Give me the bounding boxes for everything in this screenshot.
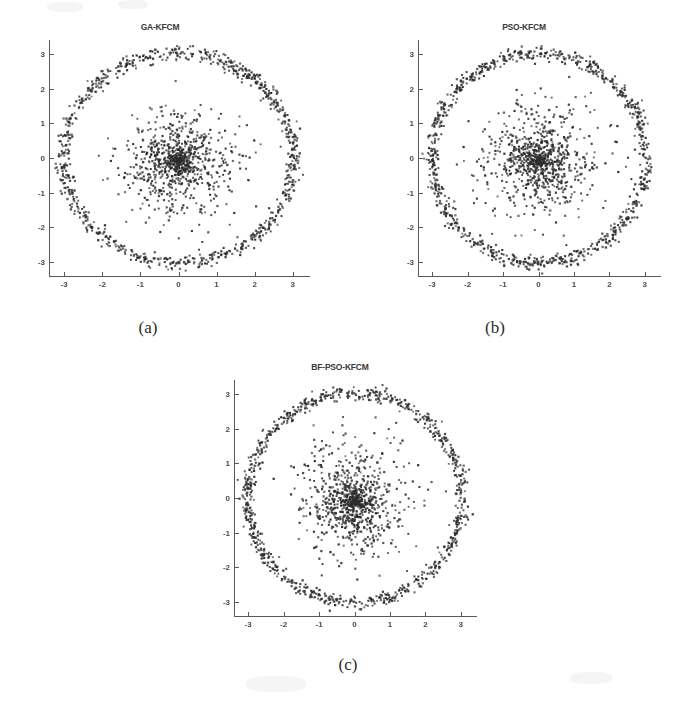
plot-a-x-tick xyxy=(255,272,256,276)
plot-b-y-ticklabel: 1 xyxy=(394,119,414,128)
plot-b-x-ticklabel: 3 xyxy=(643,280,647,289)
plot-a-y-tick xyxy=(50,227,54,228)
plot-a-x-ticklabel: 1 xyxy=(214,280,218,289)
plot-b-x-tick xyxy=(468,272,469,276)
plot-c-y-tick xyxy=(235,567,239,568)
panel-c-title: BF-PSO-KFCM xyxy=(230,362,450,372)
plot-b-y-ticklabel: -2 xyxy=(394,223,414,232)
plot-b-y-ticklabel: -3 xyxy=(394,258,414,267)
panel-b-title: PSO-KFCM xyxy=(414,22,634,32)
plot-b-y-ticklabel: -1 xyxy=(394,188,414,197)
plot-a-x-tick xyxy=(179,272,180,276)
plot-a-x-ticklabel: -3 xyxy=(61,280,68,289)
plot-b-x-tick xyxy=(503,272,504,276)
plot-c-y-tick xyxy=(235,498,239,499)
plot-c-y-ticklabel: 1 xyxy=(210,459,230,468)
plot-b-x-ticklabel: 2 xyxy=(607,280,611,289)
plot-c-y-tick xyxy=(235,394,239,395)
panel-b-plot-area: -3-2-10123-3-2-10123 xyxy=(389,36,661,298)
panel-a-caption: (a) xyxy=(139,318,158,338)
plot-c-y-tick xyxy=(235,429,239,430)
plot-b-x-ticklabel: 0 xyxy=(536,280,540,289)
plot-c-x-ticklabel: -2 xyxy=(280,620,287,629)
plot-c-x-tick xyxy=(425,612,426,616)
plot-c-x-ticklabel: -3 xyxy=(245,620,252,629)
plot-a-x-tick xyxy=(64,272,65,276)
plot-a-x-ticklabel: 3 xyxy=(291,280,295,289)
scan-artifact xyxy=(570,672,612,684)
plot-c-x-tick xyxy=(390,612,391,616)
plot-b-x-axis xyxy=(418,276,661,277)
plot-b-y-tick xyxy=(419,89,423,90)
plot-c-y-ticklabel: -3 xyxy=(210,598,230,607)
plot-c-x-tick xyxy=(284,612,285,616)
scan-artifact xyxy=(118,0,148,9)
panel-a: GA-KFCM -3-2-10123-3-2-10123 xyxy=(20,22,320,322)
plot-c-y-ticklabel: 3 xyxy=(210,389,230,398)
plot-c-y-tick xyxy=(235,463,239,464)
plot-a-y-ticklabel: -3 xyxy=(25,258,45,267)
plot-b-y-tick xyxy=(419,54,423,55)
plot-c-x-tick xyxy=(319,612,320,616)
scan-artifact xyxy=(47,2,83,12)
plot-c-y-tick xyxy=(235,533,239,534)
plot-b-x-ticklabel: -3 xyxy=(429,280,436,289)
plot-a-y-tick xyxy=(50,89,54,90)
plot-b-scatter-canvas xyxy=(389,36,661,298)
plot-a-y-ticklabel: 0 xyxy=(25,154,45,163)
plot-a-y-tick xyxy=(50,54,54,55)
plot-a-y-ticklabel: 1 xyxy=(25,119,45,128)
plot-b-x-tick xyxy=(432,272,433,276)
panel-a-plot-area: -3-2-10123-3-2-10123 xyxy=(20,36,310,298)
plot-c-y-ticklabel: -2 xyxy=(210,563,230,572)
panel-c-plot-area: -3-2-10123-3-2-10123 xyxy=(205,376,477,638)
plot-c-x-tick xyxy=(248,612,249,616)
scan-artifact xyxy=(246,676,306,692)
plot-c-x-tick xyxy=(355,612,356,616)
plot-b-y-tick xyxy=(419,123,423,124)
plot-c-x-ticklabel: 1 xyxy=(388,620,392,629)
plot-a-y-tick xyxy=(50,193,54,194)
panel-a-title: GA-KFCM xyxy=(50,22,270,32)
plot-b-x-tick xyxy=(574,272,575,276)
plot-b-x-tick xyxy=(645,272,646,276)
plot-b-x-ticklabel: 1 xyxy=(572,280,576,289)
plot-a-x-tick xyxy=(293,272,294,276)
plot-b-y-ticklabel: 0 xyxy=(394,154,414,163)
panel-b-caption: (b) xyxy=(485,318,505,338)
plot-c-x-tick xyxy=(461,612,462,616)
plot-c-y-ticklabel: 2 xyxy=(210,424,230,433)
plot-a-x-tick xyxy=(102,272,103,276)
plot-a-x-ticklabel: 2 xyxy=(252,280,256,289)
plot-c-scatter-canvas xyxy=(205,376,477,638)
plot-b-y-tick xyxy=(419,193,423,194)
plot-b-y-tick xyxy=(419,227,423,228)
plot-a-x-ticklabel: -1 xyxy=(137,280,144,289)
plot-c-y-ticklabel: -1 xyxy=(210,528,230,537)
plot-a-x-ticklabel: 0 xyxy=(176,280,180,289)
plot-c-x-ticklabel: 3 xyxy=(459,620,463,629)
plot-b-y-ticklabel: 2 xyxy=(394,84,414,93)
plot-b-x-ticklabel: -1 xyxy=(499,280,506,289)
panel-c-caption: (c) xyxy=(339,655,358,675)
figure-three-clustering-scatter-plots: GA-KFCM -3-2-10123-3-2-10123 (a) PSO-KFC… xyxy=(0,0,679,708)
plot-b-y-ticklabel: 3 xyxy=(394,49,414,58)
plot-c-x-axis xyxy=(234,616,477,617)
plot-a-y-ticklabel: 3 xyxy=(25,49,45,58)
plot-b-x-tick xyxy=(609,272,610,276)
plot-a-y-ticklabel: 2 xyxy=(25,84,45,93)
plot-a-y-tick xyxy=(50,158,54,159)
plot-a-scatter-canvas xyxy=(20,36,310,298)
plot-a-x-tick xyxy=(140,272,141,276)
panel-c: BF-PSO-KFCM -3-2-10123-3-2-10123 xyxy=(205,362,495,662)
plot-c-y-tick xyxy=(235,602,239,603)
plot-a-y-ticklabel: -2 xyxy=(25,223,45,232)
plot-b-x-tick xyxy=(539,272,540,276)
plot-a-x-tick xyxy=(217,272,218,276)
plot-b-y-tick xyxy=(419,262,423,263)
plot-c-x-ticklabel: 2 xyxy=(423,620,427,629)
plot-a-y-tick xyxy=(50,123,54,124)
plot-a-x-axis xyxy=(49,276,310,277)
panel-b: PSO-KFCM -3-2-10123-3-2-10123 xyxy=(389,22,679,322)
plot-b-y-tick xyxy=(419,158,423,159)
